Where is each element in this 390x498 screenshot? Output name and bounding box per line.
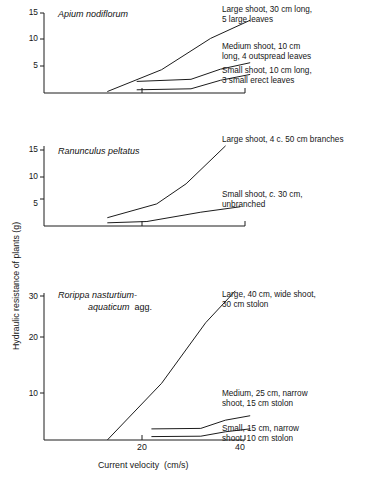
panel-apium-annotation-medium: Medium shoot, 10 cmlong, 4 outspread lea… xyxy=(222,42,311,63)
panel-apium-y-tick-10: 10 xyxy=(18,34,38,43)
panel-apium-annotation-small: Small shoot, 10 cm long,3 small erect le… xyxy=(222,66,312,87)
panel-rorippa-annotation-small: Small, 15 cm, narrowshoot, 10 cm stolon xyxy=(222,424,299,445)
panel-rorippa-y-tick-10: 10 xyxy=(18,389,38,398)
panel-apium-y-tick-15: 15 xyxy=(18,8,38,17)
x-tick-label-20: 20 xyxy=(128,443,156,452)
panel-ranunculus-annotation-large: Large shoot, 4 c. 50 cm branches xyxy=(222,135,344,145)
plot-canvas xyxy=(0,0,390,498)
panel-ranunculus-species-name: Ranunculus peltatus xyxy=(58,146,140,157)
panel-ranunculus-y-tick-15: 15 xyxy=(18,145,38,154)
panel-ranunculus-annotation-small: Small shoot, c. 30 cm,unbranched xyxy=(222,190,303,211)
panel-ranunculus-y-tick-5: 5 xyxy=(18,199,38,208)
panel-rorippa-annotation-large: Large, 40 cm, wide shoot,30 cm stolon xyxy=(222,290,316,311)
panel-apium-y-tick-5: 5 xyxy=(18,61,38,70)
series-line xyxy=(108,207,240,223)
panel-rorippa-species-name-line1: Rorippa nasturtium- xyxy=(58,290,137,301)
panel-ranunculus-y-tick-10: 10 xyxy=(18,172,38,181)
y-axis-label: Hydraulic resistance of plants (g) xyxy=(11,222,21,350)
panel-rorippa-axes xyxy=(40,293,245,440)
panel-apium-annotation-large: Large shoot, 30 cm long,5 large leaves xyxy=(222,5,312,26)
panel-rorippa-annotation-medium: Medium, 25 cm, narrowshoot, 15 cm stolon xyxy=(222,389,308,410)
panel-rorippa-species-name-line2: aquaticum agg. xyxy=(88,302,152,313)
panel-rorippa-y-tick-20: 20 xyxy=(18,333,38,342)
x-axis-label: Current velocity (cm/s) xyxy=(98,460,188,470)
panel-ranunculus-axes xyxy=(40,146,245,226)
panel-rorippa-y-tick-30: 30 xyxy=(18,292,38,301)
figure-hydraulic-resistance: Hydraulic resistance of plants (g) Curre… xyxy=(0,0,390,498)
panel-apium-species-name: Apium nodiflorum xyxy=(58,9,128,20)
series-line xyxy=(108,291,235,440)
